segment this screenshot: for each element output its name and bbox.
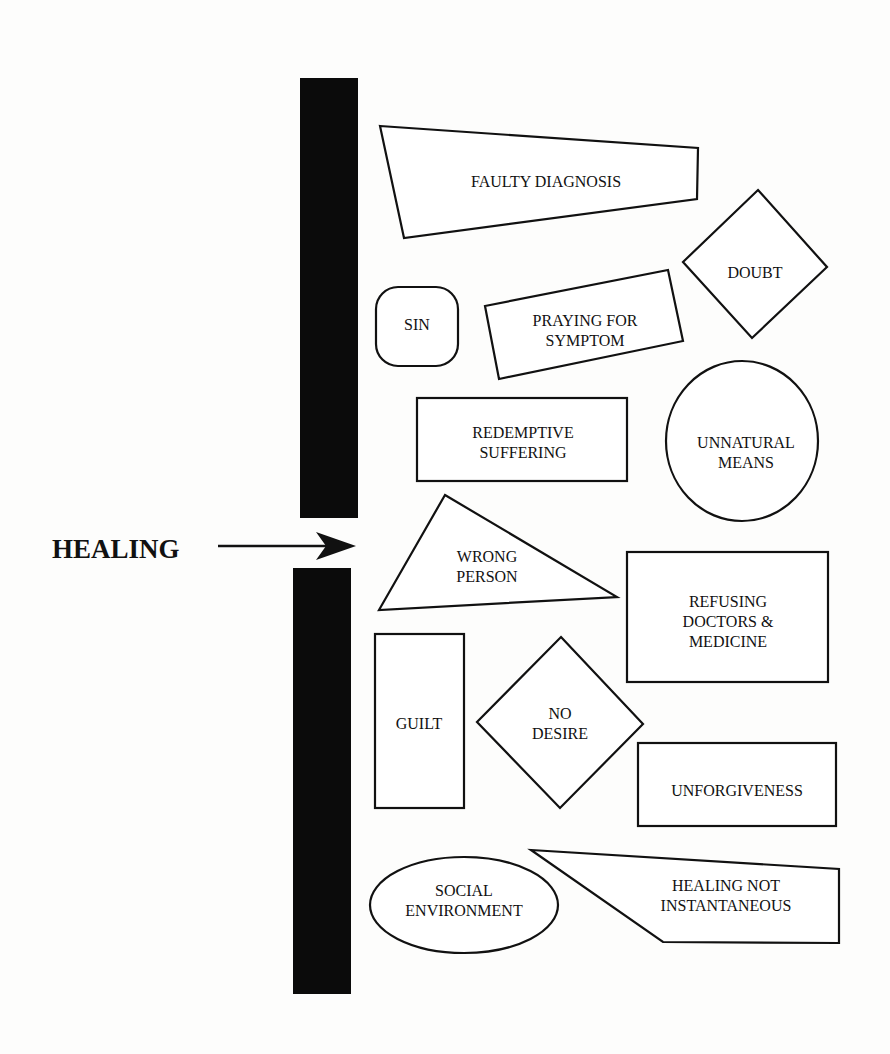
svg-text:SYMPTOM: SYMPTOM	[546, 332, 625, 349]
obstacle-refusing-doctors: REFUSING DOCTORS & MEDICINE	[627, 552, 828, 682]
svg-text:FAULTY DIAGNOSIS: FAULTY DIAGNOSIS	[471, 173, 621, 190]
svg-text:UNNATURAL: UNNATURAL	[697, 434, 795, 451]
svg-text:SIN: SIN	[404, 316, 430, 333]
barrier-wall-top	[300, 78, 358, 518]
svg-text:DOUBT: DOUBT	[727, 264, 782, 281]
obstacle-faulty-diagnosis: FAULTY DIAGNOSIS	[380, 126, 698, 238]
arrow-icon	[218, 532, 356, 560]
obstacle-redemptive-suffering: REDEMPTIVE SUFFERING	[417, 398, 627, 481]
healing-label: HEALING	[52, 534, 180, 564]
svg-text:SUFFERING: SUFFERING	[479, 444, 567, 461]
svg-text:PRAYING FOR: PRAYING FOR	[533, 312, 638, 329]
svg-text:REDEMPTIVE: REDEMPTIVE	[472, 424, 573, 441]
obstacle-wrong-person: WRONG PERSON	[379, 495, 617, 610]
svg-text:INSTANTANEOUS: INSTANTANEOUS	[661, 897, 792, 914]
svg-text:PERSON: PERSON	[456, 568, 518, 585]
obstacle-healing-not-instantaneous: HEALING NOT INSTANTANEOUS	[531, 850, 839, 943]
svg-text:DOCTORS &: DOCTORS &	[683, 613, 774, 630]
svg-text:WRONG: WRONG	[457, 548, 518, 565]
obstacle-unnatural-means: UNNATURAL MEANS	[666, 361, 818, 521]
svg-text:UNFORGIVENESS: UNFORGIVENESS	[671, 782, 803, 799]
obstacle-sin: SIN	[376, 287, 458, 366]
svg-text:SOCIAL: SOCIAL	[435, 882, 493, 899]
svg-text:HEALING NOT: HEALING NOT	[672, 877, 780, 894]
svg-text:NO: NO	[548, 705, 571, 722]
svg-text:GUILT: GUILT	[396, 715, 443, 732]
diagram-svg: HEALING FAULTY DIAGNOSIS DOUBT SIN PRAYI…	[0, 0, 890, 1054]
obstacle-unforgiveness: UNFORGIVENESS	[638, 743, 836, 826]
svg-text:ENVIRONMENT: ENVIRONMENT	[405, 902, 523, 919]
obstacle-doubt: DOUBT	[683, 190, 827, 338]
svg-text:DESIRE: DESIRE	[532, 725, 588, 742]
svg-text:MEDICINE: MEDICINE	[689, 633, 767, 650]
obstacle-guilt: GUILT	[375, 634, 464, 808]
healing-obstacles-diagram: HEALING FAULTY DIAGNOSIS DOUBT SIN PRAYI…	[0, 0, 890, 1054]
obstacle-no-desire: NO DESIRE	[477, 637, 643, 808]
barrier-wall-bottom	[293, 568, 351, 994]
obstacle-social-environment: SOCIAL ENVIRONMENT	[370, 857, 558, 953]
svg-text:MEANS: MEANS	[718, 454, 774, 471]
svg-text:REFUSING: REFUSING	[689, 593, 768, 610]
obstacle-praying-for-symptom: PRAYING FOR SYMPTOM	[485, 270, 683, 379]
